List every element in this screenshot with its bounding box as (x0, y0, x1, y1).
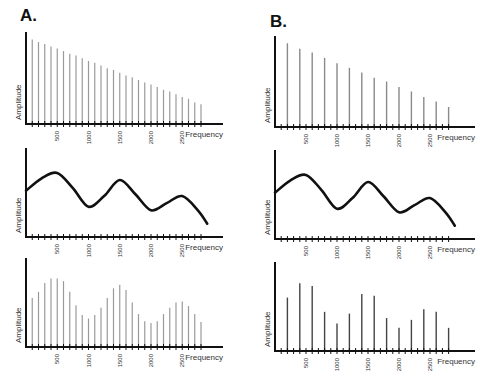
axes (26, 148, 223, 237)
x-axis-label: Frequency (437, 133, 475, 142)
x-tick-label: 500 (303, 357, 309, 368)
y-axis-label: Amplitude (14, 197, 23, 233)
x-axis-label: Frequency (185, 243, 223, 252)
chart-a-top: 5001000150020002500FrequencyAmplitude (14, 32, 223, 144)
x-axis-label: Frequency (185, 353, 223, 362)
x-tick-label: 1000 (334, 245, 340, 259)
x-tick-label: 2000 (396, 133, 402, 147)
y-axis-label: Amplitude (263, 87, 272, 123)
x-tick-label: 2500 (427, 245, 433, 259)
chart-a-middle: 5001000150020002500FrequencyAmplitude (14, 148, 223, 257)
x-axis-label: Frequency (185, 130, 223, 139)
x-tick-label: 2000 (148, 243, 154, 257)
x-tick-label: 1000 (334, 133, 340, 147)
y-axis-label: Amplitude (14, 84, 23, 120)
x-tick-label: 500 (54, 353, 60, 364)
axes (26, 258, 223, 347)
x-tick-label: 500 (303, 133, 309, 144)
chart-b-bottom: 5001000150020002500FrequencyAmplitude (263, 262, 475, 371)
chart-b-top: 5001000150020002500FrequencyAmplitude (263, 36, 475, 147)
x-tick-label: 500 (54, 243, 60, 254)
x-tick-label: 1500 (117, 243, 123, 257)
axes (275, 262, 475, 351)
x-tick-label: 500 (303, 245, 309, 256)
y-axis-label: Amplitude (263, 199, 272, 235)
x-tick-label: 2000 (148, 130, 154, 144)
axes (275, 36, 475, 127)
chart-b-middle: 5001000150020002500FrequencyAmplitude (263, 150, 475, 259)
x-axis-label: Frequency (437, 357, 475, 366)
x-tick-label: 2500 (427, 133, 433, 147)
chart-a-bottom: 5001000150020002500FrequencyAmplitude (14, 258, 223, 367)
x-tick-label: 1500 (365, 357, 371, 371)
x-tick-label: 1500 (365, 245, 371, 259)
x-tick-label: 1000 (86, 130, 92, 144)
filter-curve (26, 173, 207, 224)
x-tick-label: 1500 (117, 130, 123, 144)
x-axis-label: Frequency (437, 245, 475, 254)
y-axis-label: Amplitude (14, 307, 23, 343)
x-tick-label: 2500 (427, 357, 433, 371)
axes (275, 150, 475, 239)
x-tick-label: 2000 (396, 357, 402, 371)
x-tick-label: 2000 (148, 353, 154, 367)
x-tick-label: 500 (54, 130, 60, 141)
x-tick-label: 1000 (334, 357, 340, 371)
x-tick-label: 1000 (86, 243, 92, 257)
axes (26, 32, 223, 124)
x-tick-label: 1500 (117, 353, 123, 367)
filter-curve (275, 175, 455, 226)
figure-canvas: 5001000150020002500FrequencyAmplitude500… (0, 0, 492, 384)
x-tick-label: 1500 (365, 133, 371, 147)
y-axis-label: Amplitude (263, 311, 272, 347)
x-tick-label: 2000 (396, 245, 402, 259)
x-tick-label: 1000 (86, 353, 92, 367)
